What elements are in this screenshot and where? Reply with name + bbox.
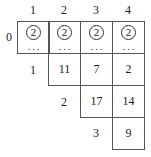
circled-value: 2 <box>89 25 104 40</box>
row1-cell-4: 2 <box>112 53 145 86</box>
circled-value: 2 <box>26 25 41 40</box>
ellipsis-dots: ... <box>59 43 73 51</box>
row3-cell-4: 9 <box>112 117 145 150</box>
row-label-3: 3 <box>80 127 112 139</box>
row2-cell-4: 14 <box>112 85 145 118</box>
column-header-1: 1 <box>17 4 49 16</box>
column-header-2: 2 <box>48 4 80 16</box>
ellipsis-dots: ... <box>91 43 105 51</box>
row0-cell-4: 2 ... <box>112 21 145 54</box>
column-header-4: 4 <box>112 4 144 16</box>
ellipsis-dots: ... <box>123 43 137 51</box>
row0-cell-1: 2 ... <box>17 21 50 54</box>
row-label-0: 0 <box>4 31 14 43</box>
row1-cell-2: 11 <box>48 53 81 86</box>
circled-value: 2 <box>57 25 72 40</box>
row0-cell-3: 2 ... <box>80 21 113 54</box>
row-label-2: 2 <box>48 96 80 108</box>
row-label-1: 1 <box>17 64 49 76</box>
circled-value: 2 <box>121 25 136 40</box>
column-header-3: 3 <box>80 4 112 16</box>
row0-cell-2: 2 ... <box>48 21 81 54</box>
row2-cell-3: 17 <box>80 85 113 118</box>
ellipsis-dots: ... <box>28 43 42 51</box>
row1-cell-3: 7 <box>80 53 113 86</box>
